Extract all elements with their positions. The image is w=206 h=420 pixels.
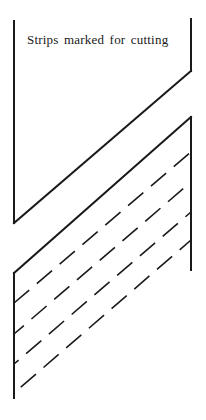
lower-diagonal-edge [14, 117, 191, 273]
cutting-line-1 [14, 152, 191, 303]
cutting-line-3 [14, 212, 191, 364]
cutting-line-2 [14, 182, 191, 334]
upper-diagonal-cut [14, 71, 191, 223]
diagram-caption: Strips marked for cutting [27, 32, 179, 48]
upper-fabric-piece [14, 19, 191, 223]
strip-cutting-diagram [0, 0, 206, 420]
cutting-line-4 [14, 240, 191, 393]
dashed-cutting-lines [14, 152, 191, 393]
